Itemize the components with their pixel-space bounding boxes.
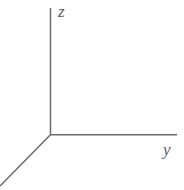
axes-drawing — [0, 0, 184, 190]
y-axis-label: y — [163, 141, 171, 158]
x-axis-line — [0, 135, 50, 186]
coordinate-axes-figure: z y — [0, 0, 184, 190]
z-axis-label: z — [58, 3, 65, 20]
